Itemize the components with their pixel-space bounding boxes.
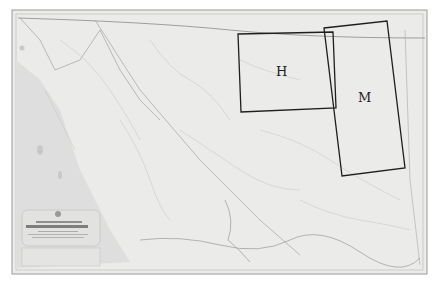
title-cartouche xyxy=(22,210,100,266)
crest-icon xyxy=(55,211,61,217)
map-canvas xyxy=(0,0,438,285)
region-m-label: M xyxy=(358,90,371,105)
region-h-label: H xyxy=(276,64,287,79)
